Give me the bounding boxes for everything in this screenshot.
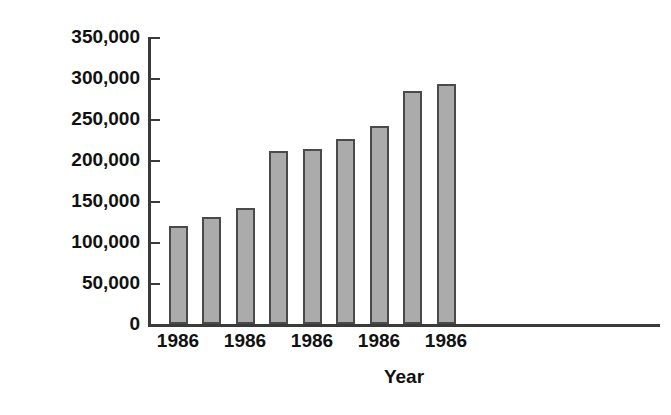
bar bbox=[236, 208, 255, 324]
y-axis-tick-label: 100,000 bbox=[40, 231, 140, 253]
x-axis-title: Year bbox=[148, 366, 660, 388]
y-axis-tick-label: 350,000 bbox=[40, 26, 140, 48]
bar bbox=[169, 226, 188, 324]
plot-area bbox=[148, 37, 660, 324]
y-axis-tick-mark bbox=[151, 37, 160, 39]
bar bbox=[269, 151, 288, 324]
x-axis-tick-label: 1986 bbox=[358, 330, 400, 352]
bar bbox=[303, 149, 322, 324]
bar bbox=[370, 126, 389, 324]
bar bbox=[336, 139, 355, 324]
x-axis-tick-label: 1986 bbox=[425, 330, 467, 352]
y-axis-tick-mark bbox=[151, 160, 160, 162]
y-axis-tick-mark bbox=[151, 283, 160, 285]
y-axis-tick-label-group: 050,000100,000150,000200,000250,000300,0… bbox=[40, 0, 140, 415]
y-axis-tick-label: 50,000 bbox=[40, 272, 140, 294]
y-axis-tick-label: 300,000 bbox=[40, 67, 140, 89]
y-axis-tick-mark bbox=[151, 119, 160, 121]
x-axis-line bbox=[148, 324, 660, 327]
bar-chart-figure: Reports of elder abuse 050,000100,000150… bbox=[0, 0, 671, 415]
y-axis-tick-mark bbox=[151, 78, 160, 80]
y-axis-tick-label: 250,000 bbox=[40, 108, 140, 130]
bar bbox=[437, 84, 456, 324]
y-axis-tick-mark bbox=[151, 201, 160, 203]
bar bbox=[202, 217, 221, 324]
x-axis-tick-label: 1986 bbox=[291, 330, 333, 352]
x-axis-tick-label: 1986 bbox=[224, 330, 266, 352]
x-axis-tick-label: 1986 bbox=[157, 330, 199, 352]
bar bbox=[403, 91, 422, 324]
y-axis-tick-label: 0 bbox=[40, 313, 140, 335]
y-axis-tick-label: 200,000 bbox=[40, 149, 140, 171]
y-axis-tick-label: 150,000 bbox=[40, 190, 140, 212]
bars-layer bbox=[148, 37, 660, 324]
y-axis-tick-mark bbox=[151, 242, 160, 244]
x-axis-tick-label-group: 19861986198619861986 bbox=[148, 330, 660, 360]
